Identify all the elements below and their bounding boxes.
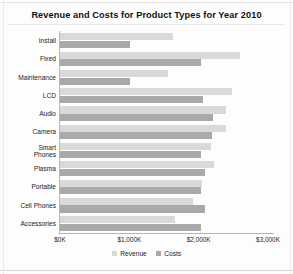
bar-costs <box>60 132 212 139</box>
bar-revenue <box>60 125 226 132</box>
legend-item-revenue[interactable]: Revenue <box>112 250 147 257</box>
legend-label: Costs <box>164 250 181 257</box>
title-divider <box>8 24 285 25</box>
bar-costs <box>60 187 201 194</box>
chart-row: Plasma <box>60 160 268 178</box>
chart-row: Maintenance <box>60 69 268 87</box>
bar-costs <box>60 114 213 121</box>
category-label: Camera <box>0 129 56 136</box>
bar-revenue <box>60 143 211 150</box>
x-axis-line <box>59 233 274 234</box>
chart-row: Install <box>60 32 268 50</box>
bar-costs <box>60 78 130 85</box>
legend-swatch-costs <box>156 251 162 257</box>
bar-costs <box>60 169 205 176</box>
chart-row: Camera <box>60 123 268 141</box>
bar-revenue <box>60 198 193 205</box>
bar-costs <box>60 59 201 66</box>
x-tick-label: $1,000K <box>117 236 141 243</box>
category-label: Smart Phones <box>0 144 56 158</box>
legend-item-costs[interactable]: Costs <box>156 250 181 257</box>
bar-revenue <box>60 180 202 187</box>
bar-revenue <box>60 88 232 95</box>
x-tick-label: $3,000K <box>256 236 280 243</box>
page-edge-bottom <box>0 270 293 271</box>
chart-row: Fixed <box>60 50 268 68</box>
page-edge-right <box>290 0 291 274</box>
category-label: Maintenance <box>0 74 56 81</box>
chart-legend: RevenueCosts <box>0 250 293 257</box>
category-label: Install <box>0 38 56 45</box>
chart-row: Cell Phones <box>60 196 268 214</box>
category-label: Portable <box>0 184 56 191</box>
legend-swatch-revenue <box>112 251 118 257</box>
category-label: Accessories <box>0 220 56 227</box>
chart-row: Audio <box>60 105 268 123</box>
bar-revenue <box>60 161 214 168</box>
legend-label: Revenue <box>120 250 146 257</box>
page-edge-top <box>0 2 293 3</box>
bar-costs <box>60 96 203 103</box>
category-label: LCD <box>0 92 56 99</box>
chart-container: Revenue and Costs for Product Types for … <box>0 0 293 274</box>
chart-row: Accessories <box>60 215 268 233</box>
bar-revenue <box>60 33 173 40</box>
bar-revenue <box>60 106 226 113</box>
category-label: Audio <box>0 111 56 118</box>
bar-revenue <box>60 52 240 59</box>
category-label: Cell Phones <box>0 202 56 209</box>
chart-row: Smart Phones <box>60 142 268 160</box>
bar-costs <box>60 224 201 231</box>
x-tick-label: $2,000K <box>187 236 211 243</box>
bar-costs <box>60 151 201 158</box>
bar-revenue <box>60 70 168 77</box>
chart-row: Portable <box>60 178 268 196</box>
category-label: Plasma <box>0 165 56 172</box>
bar-costs <box>60 205 205 212</box>
bar-revenue <box>60 216 175 223</box>
chart-title: Revenue and Costs for Product Types for … <box>0 10 293 20</box>
bar-costs <box>60 41 130 48</box>
x-tick-label: $0K <box>54 236 65 243</box>
category-label: Fixed <box>0 56 56 63</box>
plot-area: InstallFixedMaintenanceLCDAudioCameraSma… <box>60 32 268 233</box>
chart-row: LCD <box>60 87 268 105</box>
